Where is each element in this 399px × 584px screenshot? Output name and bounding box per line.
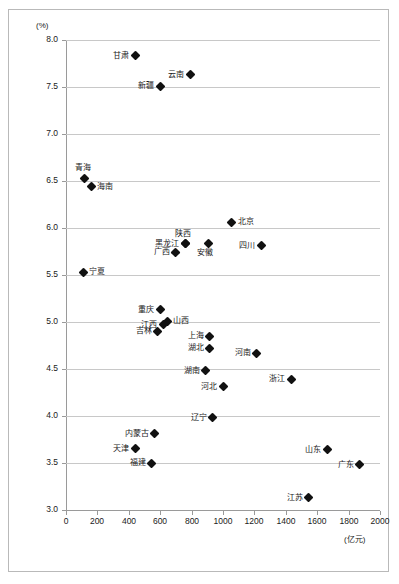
x-tick-mark	[254, 511, 255, 515]
y-tick-label: 7.0	[28, 129, 58, 138]
diamond-marker	[130, 51, 140, 61]
data-point-label: 重庆	[138, 305, 154, 314]
x-tick-label: 1200	[239, 516, 269, 526]
y-tick-label: 4.5	[28, 364, 58, 373]
x-tick-mark	[286, 511, 287, 515]
x-tick-label: 1600	[302, 516, 332, 526]
data-point-label: 吉林	[136, 326, 152, 335]
diamond-marker	[304, 493, 314, 503]
y-tick-label: 4.0	[28, 411, 58, 420]
diamond-marker	[130, 444, 140, 454]
x-tick-mark	[66, 511, 67, 515]
data-point-label: 青海	[75, 163, 91, 172]
data-point-label: 安徽	[197, 248, 213, 257]
data-point-label: 上海	[188, 331, 204, 340]
data-point-label: 福建	[130, 458, 146, 467]
y-tick-label: 3.0	[28, 505, 58, 514]
data-point-label: 天津	[113, 444, 129, 453]
y-tick-label: 5.5	[28, 270, 58, 279]
data-point-label: 湖南	[184, 366, 200, 375]
diamond-marker	[252, 348, 262, 358]
diamond-marker	[86, 182, 96, 192]
x-tick-mark	[349, 511, 350, 515]
x-tick-label: 2000	[365, 516, 395, 526]
x-tick-label: 800	[177, 516, 207, 526]
y-tick-label: 8.0	[28, 35, 58, 44]
x-tick-mark	[129, 511, 130, 515]
diamond-marker	[180, 239, 190, 249]
x-tick-label: 0	[51, 516, 81, 526]
x-axis-unit-label: (亿元)	[344, 533, 365, 544]
data-point-label: 新疆	[138, 81, 154, 90]
data-point-label: 云南	[168, 70, 184, 79]
data-point-label: 广东	[338, 460, 354, 469]
data-point-label: 河北	[201, 382, 217, 391]
y-tick-label: 5.0	[28, 317, 58, 326]
diamond-marker	[208, 413, 218, 423]
diamond-marker	[185, 70, 195, 80]
y-tick-label: 7.5	[28, 82, 58, 91]
diamond-marker	[205, 331, 215, 341]
y-tick-label: 6.5	[28, 176, 58, 185]
data-point-label: 浙江	[269, 374, 285, 383]
data-point-label: 甘肃	[113, 51, 129, 60]
data-point-label: 海南	[97, 182, 113, 191]
x-tick-mark	[223, 511, 224, 515]
diamond-marker	[80, 173, 90, 183]
x-tick-mark	[380, 511, 381, 515]
data-point-label: 广西	[154, 247, 170, 256]
diamond-marker	[218, 382, 228, 392]
diamond-marker	[227, 217, 237, 227]
x-tick-label: 1000	[208, 516, 238, 526]
diamond-marker	[355, 460, 365, 470]
data-point-label: 河南	[235, 348, 251, 357]
scatter-chart: (%) (亿元) 3.03.54.04.55.05.56.06.57.07.58…	[0, 0, 399, 584]
y-axis-unit-label: (%)	[36, 21, 48, 30]
diamond-marker	[78, 267, 88, 277]
diamond-marker	[155, 305, 165, 315]
data-point-label: 辽宁	[191, 413, 207, 422]
x-tick-label: 200	[82, 516, 112, 526]
diamond-marker	[286, 374, 296, 384]
data-point-label: 江苏	[287, 493, 303, 502]
y-tick-label: 6.0	[28, 223, 58, 232]
data-point-label: 四川	[239, 241, 255, 250]
x-tick-mark	[317, 511, 318, 515]
plot-area: 甘肃云南新疆青海海南北京陕西黑龙江安徽四川广西宁夏重庆山西江西吉林上海湖北河南湖…	[66, 40, 380, 510]
x-tick-label: 600	[145, 516, 175, 526]
diamond-marker	[322, 445, 332, 455]
diamond-marker	[171, 247, 181, 257]
x-tick-mark	[192, 511, 193, 515]
data-point-label: 山西	[173, 316, 189, 325]
diamond-marker	[201, 366, 211, 376]
data-point-label: 北京	[238, 217, 254, 226]
diamond-marker	[155, 81, 165, 91]
x-tick-label: 1400	[271, 516, 301, 526]
x-tick-mark	[160, 511, 161, 515]
x-tick-label: 1800	[334, 516, 364, 526]
diamond-marker	[257, 241, 267, 251]
x-tick-label: 400	[114, 516, 144, 526]
y-tick-label: 3.5	[28, 458, 58, 467]
x-tick-mark	[97, 511, 98, 515]
diamond-marker	[150, 429, 160, 439]
data-point-label: 陕西	[175, 229, 191, 238]
diamond-marker	[147, 458, 157, 468]
diamond-marker	[205, 343, 215, 353]
data-point-label: 山东	[305, 445, 321, 454]
data-point-label: 宁夏	[89, 267, 105, 276]
data-point-label: 湖北	[188, 343, 204, 352]
data-point-label: 内蒙古	[125, 429, 149, 438]
